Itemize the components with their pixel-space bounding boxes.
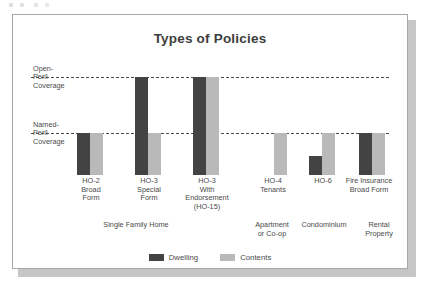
category-label-fire-insurance: Fire InsuranceBroad Form [331,177,407,194]
bar-ho3-endorsement-dwelling [193,77,206,175]
bar-fire-insurance-dwelling [359,133,372,175]
category-label-ho2: HO-2BroadForm [61,177,121,203]
legend-label-contents: Contents [240,253,271,262]
bar-ho3-endorsement-contents [206,77,219,175]
bar-ho6-contents [322,133,335,175]
legend-item-dwelling: Dwelling [149,253,198,262]
group-label-row: Single Family Home Apartmentor Co-op Con… [31,221,389,251]
chart-title: Types of Policies [13,31,407,46]
category-label-row: HO-2BroadForm HO-3SpecialForm HO-3WithEn… [31,177,389,223]
chart-legend: Dwelling Contents [13,253,407,262]
bar-ho6-dwelling [309,156,322,175]
chart-figure: Types of Policies Open-PerilCoverage Nam… [12,14,408,269]
bar-fire-insurance-contents [372,133,385,175]
bar-ho2-contents [90,133,103,175]
legend-swatch-contents-icon [220,254,235,261]
legend-label-dwelling: Dwelling [169,253,198,262]
bar-ho4-contents [274,133,287,175]
group-label-single-family-home: Single Family Home [71,221,201,230]
category-label-ho3-endorsement: HO-3WithEndorsement(HO-15) [169,177,245,211]
plot-area: Open-PerilCoverage Named-PerilCoverage [31,45,389,175]
group-label-rental-property: RentalProperty [351,221,407,238]
legend-item-contents: Contents [220,253,271,262]
group-label-condominium: Condominium [291,221,357,230]
bar-ho2-dwelling [77,133,90,175]
legend-swatch-dwelling-icon [149,254,164,261]
scan-artifact [6,2,52,9]
bar-ho3-special-dwelling [135,77,148,175]
bar-ho3-special-contents [148,133,161,175]
